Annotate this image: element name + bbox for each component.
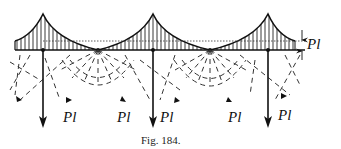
load-label-1: Pl <box>63 110 76 125</box>
figure-caption: Fig. 184. <box>141 135 180 146</box>
hanger-hatching <box>17 10 293 50</box>
small-arrowheads <box>16 93 287 103</box>
load-label-2: Pl <box>117 110 130 125</box>
dashed-pressure-lines <box>10 50 300 100</box>
suspension-diagram <box>0 0 341 149</box>
load-label-3: Pl <box>160 110 173 125</box>
load-label-5: Pl <box>278 108 291 123</box>
load-label-4: Pl <box>228 110 241 125</box>
right-dimension-label: Pl <box>307 37 320 52</box>
